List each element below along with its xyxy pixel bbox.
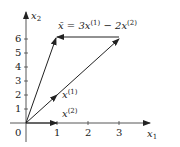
y-tick-label: 6 <box>15 33 21 44</box>
y-tick-label: 3 <box>15 75 21 86</box>
x2-vector-label: x(2) <box>62 107 78 119</box>
x-tick-label: 3 <box>116 127 122 138</box>
y-tick-label: 1 <box>15 103 21 114</box>
vector-diagram: 1 2 3 4 5 6 0 1 2 3 x1 x2 x̄ = 3x(1) − 2… <box>0 0 180 147</box>
x1-axis-label: x1 <box>147 128 157 141</box>
x-tick-label: 2 <box>85 127 91 138</box>
y-tick-label: 2 <box>15 89 21 100</box>
origin-label: 0 <box>15 127 21 138</box>
x1-vector-label: x(1) <box>62 88 78 100</box>
xbar-equation-label: x̄ = 3x(1) − 2x(2) <box>58 19 137 31</box>
x2-axis-label: x2 <box>31 10 41 23</box>
y-tick-label: 4 <box>15 61 21 72</box>
x-tick-label: 1 <box>54 127 60 138</box>
vector-3x1 <box>57 39 119 95</box>
vector-xbar <box>26 38 56 123</box>
y-tick-label: 5 <box>15 47 21 58</box>
